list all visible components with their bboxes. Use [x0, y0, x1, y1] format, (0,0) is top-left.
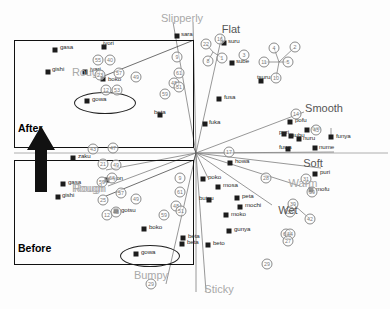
axis-label-bumpy: Bumpy [134, 269, 168, 281]
axis-label-smooth: Smooth [305, 102, 343, 114]
axis-label-rough: Rough [74, 182, 106, 194]
axis-label-soft: Soft [303, 157, 323, 169]
axis-labels-layer: SlipperlyFlatSmoothSoftWarmWetStickyBump… [0, 0, 390, 309]
axis-label-slipperly: Slipperly [161, 12, 203, 24]
texture-perceptual-map: After Before sarajyorigasagishijyariboko… [0, 0, 390, 309]
axis-label-sticky: Sticky [204, 283, 233, 295]
axis-label-warm: Warm [289, 177, 318, 189]
axis-label-flat: Flat [222, 23, 240, 35]
axis-label-wet: Wet [278, 204, 297, 216]
